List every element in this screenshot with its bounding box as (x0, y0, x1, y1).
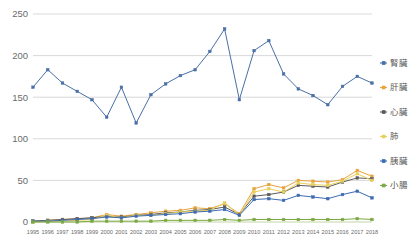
legend-label: 肝臟 (390, 82, 408, 92)
x-tick-label: 2014 (307, 229, 319, 235)
data-point (209, 210, 212, 213)
data-point (356, 169, 359, 172)
x-tick-label: 2013 (292, 229, 304, 235)
data-point (120, 86, 123, 89)
x-tick-label: 2007 (204, 229, 216, 235)
data-point (326, 103, 329, 106)
data-point (238, 214, 241, 217)
legend-item-2[interactable]: 心臟 (380, 107, 408, 117)
data-point (194, 207, 197, 210)
x-tick-label: 2008 (218, 229, 230, 235)
legend-marker (382, 184, 385, 187)
y-tick-label: 200 (12, 50, 28, 61)
legend-label: 胰臟 (390, 156, 408, 166)
x-tick-label: 2015 (322, 229, 334, 235)
data-point (312, 218, 315, 221)
x-tick-label: 2017 (351, 229, 363, 235)
data-point (356, 190, 359, 193)
x-tick-label: 2010 (248, 229, 260, 235)
legend-marker (382, 62, 385, 65)
data-point (135, 220, 138, 223)
x-tick-label: 2009 (233, 229, 245, 235)
data-point (32, 221, 35, 224)
data-point (297, 179, 300, 182)
legend-marker (382, 135, 385, 138)
data-point (341, 180, 344, 183)
data-point (105, 216, 108, 219)
legend-item-4[interactable]: 胰臟 (380, 156, 408, 166)
y-tick-label: 0 (23, 216, 28, 227)
data-point (164, 213, 167, 216)
data-point (371, 175, 374, 178)
data-point (150, 93, 153, 96)
series-1 (32, 169, 374, 222)
data-point (120, 217, 123, 220)
data-point (179, 219, 182, 222)
data-point (61, 82, 64, 85)
data-point (91, 220, 94, 223)
data-point (282, 73, 285, 76)
data-point (209, 219, 212, 222)
data-point (194, 211, 197, 214)
x-tick-label: 2000 (100, 229, 112, 235)
data-point (356, 177, 359, 180)
series-2 (32, 177, 374, 223)
x-tick-label: 1997 (56, 229, 68, 235)
data-point (46, 221, 49, 224)
legend-item-0[interactable]: 腎臟 (380, 58, 408, 68)
y-tick-label: 150 (12, 92, 28, 103)
data-point (326, 197, 329, 200)
data-point (238, 98, 241, 101)
data-point (297, 218, 300, 221)
data-point (312, 183, 315, 186)
legend-item-3[interactable]: 肺 (380, 131, 399, 141)
data-point (268, 193, 271, 196)
data-point (209, 50, 212, 53)
series-4 (32, 190, 374, 223)
y-tick-label: 100 (12, 133, 28, 144)
data-point (356, 217, 359, 220)
x-tick-label: 1995 (27, 229, 39, 235)
x-tick-label: 1996 (42, 229, 54, 235)
legend-marker (382, 111, 385, 114)
data-point (32, 86, 35, 89)
x-tick-label: 2002 (130, 229, 142, 235)
data-point (282, 218, 285, 221)
data-point (135, 122, 138, 125)
data-point (371, 197, 374, 200)
data-point (326, 184, 329, 187)
data-point (164, 219, 167, 222)
data-point (105, 220, 108, 223)
data-point (297, 194, 300, 197)
y-gridlines (33, 14, 372, 180)
data-point (268, 183, 271, 186)
data-point (253, 187, 256, 190)
data-point (61, 221, 64, 224)
x-axis-tick-labels: 1995199619971998199920002001200220032004… (27, 229, 378, 235)
data-point (238, 219, 241, 222)
series-line (33, 178, 372, 221)
data-point (76, 221, 79, 224)
data-point (253, 49, 256, 52)
data-point (282, 191, 285, 194)
data-point (223, 28, 226, 31)
legend-label: 腎臟 (390, 58, 408, 68)
y-tick-label: 50 (17, 175, 28, 186)
x-tick-label: 2003 (145, 229, 157, 235)
x-tick-label: 2004 (159, 229, 171, 235)
line-chart: 050100150200250 199519961997199819992000… (0, 0, 415, 248)
chart-canvas: 050100150200250 199519961997199819992000… (0, 0, 415, 248)
data-point (91, 217, 94, 220)
data-point (223, 202, 226, 205)
data-point (223, 218, 226, 221)
legend-item-1[interactable]: 肝臟 (380, 82, 408, 92)
legend-item-5[interactable]: 小腸 (380, 180, 408, 190)
data-point (164, 83, 167, 86)
legend-label: 心臟 (390, 107, 408, 117)
data-point (312, 94, 315, 97)
data-point (76, 90, 79, 93)
y-axis-tick-labels: 050100150200250 (12, 8, 28, 227)
legend-label: 小腸 (390, 180, 408, 190)
data-point (268, 187, 271, 190)
data-point (341, 218, 344, 221)
